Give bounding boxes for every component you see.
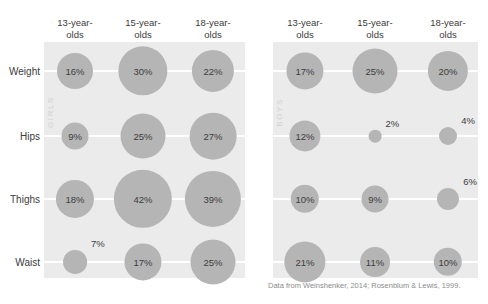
bubble-value-boys-hips-2: 2% — [385, 117, 399, 128]
column-header-boys-1: 13-year-olds — [268, 17, 342, 40]
bubble-value-boys-waist-10: 10% — [438, 257, 457, 268]
bubble-chart: GIRLS BOYS 13-year-olds15-year-olds18-ye… — [0, 0, 488, 304]
group-label-girls: GIRLS — [46, 96, 55, 128]
row-label-weight: Weight — [0, 66, 40, 77]
bubble-value-girls-hips-25: 25% — [133, 131, 152, 142]
bubble-value-boys-weight-25: 25% — [365, 66, 384, 77]
bubble-value-girls-weight-30: 30% — [133, 66, 152, 77]
bubble-value-girls-waist-7: 7% — [91, 238, 105, 249]
bubble-value-girls-hips-27: 27% — [203, 131, 222, 142]
bubble-value-girls-waist-17: 17% — [133, 257, 152, 268]
bubble-value-boys-weight-20: 20% — [438, 66, 457, 77]
bubble-value-boys-weight-17: 17% — [295, 66, 314, 77]
group-label-boys: BOYS — [275, 98, 284, 127]
bubble-value-boys-thighs-6: 6% — [463, 175, 477, 186]
column-header-girls-1: 13-year-olds — [38, 17, 112, 40]
bubble-value-girls-thighs-18: 18% — [65, 194, 84, 205]
bubble-value-boys-hips-12: 12% — [295, 131, 314, 142]
clipped-header-text — [0, 0, 488, 9]
bubble-value-boys-thighs-10: 10% — [295, 194, 314, 205]
bubble-value-girls-waist-25: 25% — [203, 257, 222, 268]
column-header-girls-2: 15-year-olds — [106, 17, 180, 40]
bubble-boys-hips-2 — [369, 130, 382, 143]
bubble-value-boys-thighs-9: 9% — [368, 194, 382, 205]
column-header-boys-2: 15-year-olds — [338, 17, 412, 40]
bubble-value-boys-waist-21: 21% — [295, 257, 314, 268]
column-header-boys-3: 18-year-olds — [411, 17, 485, 40]
row-label-hips: Hips — [0, 131, 40, 142]
bubble-value-boys-waist-11: 11% — [366, 257, 384, 268]
row-label-waist: Waist — [0, 257, 40, 268]
bubble-value-girls-hips-9: 9% — [68, 131, 82, 142]
bubble-value-girls-thighs-42: 42% — [133, 194, 152, 205]
bubble-boys-hips-4 — [439, 127, 457, 145]
bubble-boys-thighs-6 — [437, 188, 459, 210]
bubble-value-boys-hips-4: 4% — [461, 115, 475, 126]
row-label-thighs: Thighs — [0, 194, 40, 205]
bubble-girls-waist-7 — [63, 250, 87, 274]
bubble-value-girls-weight-22: 22% — [203, 66, 222, 77]
source-caption: Data from Weinshenker, 2014; Rosenblum &… — [268, 281, 483, 290]
bubble-value-girls-weight-16: 16% — [65, 66, 84, 77]
bubble-value-girls-thighs-39: 39% — [203, 194, 222, 205]
column-header-girls-3: 18-year-olds — [176, 17, 250, 40]
